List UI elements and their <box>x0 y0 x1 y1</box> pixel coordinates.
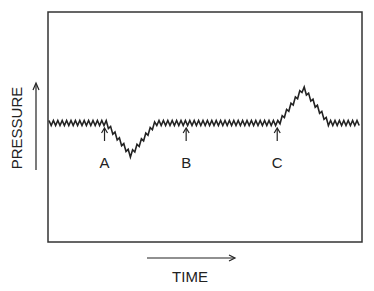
event-label: B <box>181 154 191 171</box>
event-marker-a: A <box>100 128 110 171</box>
event-label: A <box>100 154 110 171</box>
x-axis-label: TIME <box>172 268 208 285</box>
y-axis-label: PRESSURE <box>8 87 25 170</box>
pressure-time-diagram: ABC PRESSURE TIME <box>0 0 374 291</box>
event-label: C <box>272 154 283 171</box>
event-marker-c: C <box>272 128 283 171</box>
pressure-trace <box>49 87 359 157</box>
event-marker-b: B <box>181 128 191 171</box>
